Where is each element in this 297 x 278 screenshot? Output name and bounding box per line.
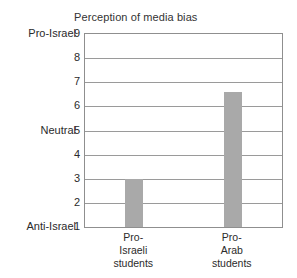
y-axis-tick-label: 2 bbox=[40, 196, 80, 207]
gridline bbox=[85, 131, 282, 132]
gridline bbox=[85, 155, 282, 156]
x-axis-category-labels: Pro-IsraelistudentsPro-Arabstudents bbox=[84, 231, 283, 277]
bar bbox=[125, 179, 143, 227]
y-axis-tick-label: 3 bbox=[40, 172, 80, 183]
chart-figure: Perception of media bias Pro-IsraelNeutr… bbox=[0, 0, 297, 278]
y-axis-tick-label: 6 bbox=[40, 100, 80, 111]
gridline bbox=[85, 106, 282, 107]
x-axis-category-label-line: Arab bbox=[184, 244, 280, 257]
plot-area bbox=[84, 33, 283, 228]
x-axis-category-label: Pro-Arabstudents bbox=[184, 231, 280, 270]
gridline bbox=[85, 179, 282, 180]
x-axis-category-label-line: students bbox=[85, 257, 181, 270]
x-axis-category-label-line: Pro- bbox=[184, 231, 280, 244]
y-axis-tick-label: 1 bbox=[40, 221, 80, 232]
y-axis-tick-label: 8 bbox=[40, 52, 80, 63]
chart-title: Perception of media bias bbox=[74, 11, 197, 23]
x-axis-category-label-line: Israeli bbox=[85, 244, 181, 257]
x-axis-category-label: Pro-Israelistudents bbox=[85, 231, 181, 270]
y-axis-tick-label: 4 bbox=[40, 148, 80, 159]
gridline bbox=[85, 58, 282, 59]
y-axis-tick-label: 5 bbox=[40, 124, 80, 135]
x-axis-category-label-line: Pro- bbox=[85, 231, 181, 244]
gridline bbox=[85, 203, 282, 204]
y-axis-tick-label: 9 bbox=[40, 28, 80, 39]
y-axis-tick-label: 7 bbox=[40, 76, 80, 87]
x-axis-category-label-line: students bbox=[184, 257, 280, 270]
gridline bbox=[85, 82, 282, 83]
y-axis-tick-labels: 123456789 bbox=[36, 33, 80, 228]
bar bbox=[224, 92, 242, 227]
